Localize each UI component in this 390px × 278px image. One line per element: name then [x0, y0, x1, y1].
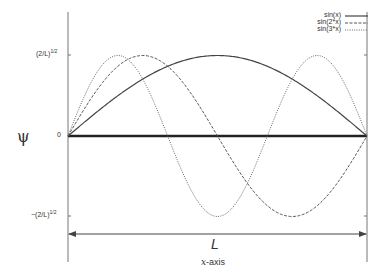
y-tick-label-top: (2/L)1/2 — [36, 48, 57, 57]
span-label: L — [211, 236, 219, 252]
legend-label-sin-3x: sin(3*x) — [300, 25, 341, 32]
x-axis-label: x-axis — [201, 257, 225, 267]
y-tick-label-bottom: −(2/L)1/2 — [31, 209, 56, 218]
legend-label-sin-2x: sin(2*x) — [300, 18, 341, 25]
chart-canvas — [0, 0, 390, 278]
y-tick-label-zero: 0 — [57, 131, 61, 138]
legend-label-sin-x: sin(x) — [300, 11, 341, 18]
series-sin-x — [68, 56, 367, 137]
y-axis-label: ψ — [17, 127, 30, 146]
